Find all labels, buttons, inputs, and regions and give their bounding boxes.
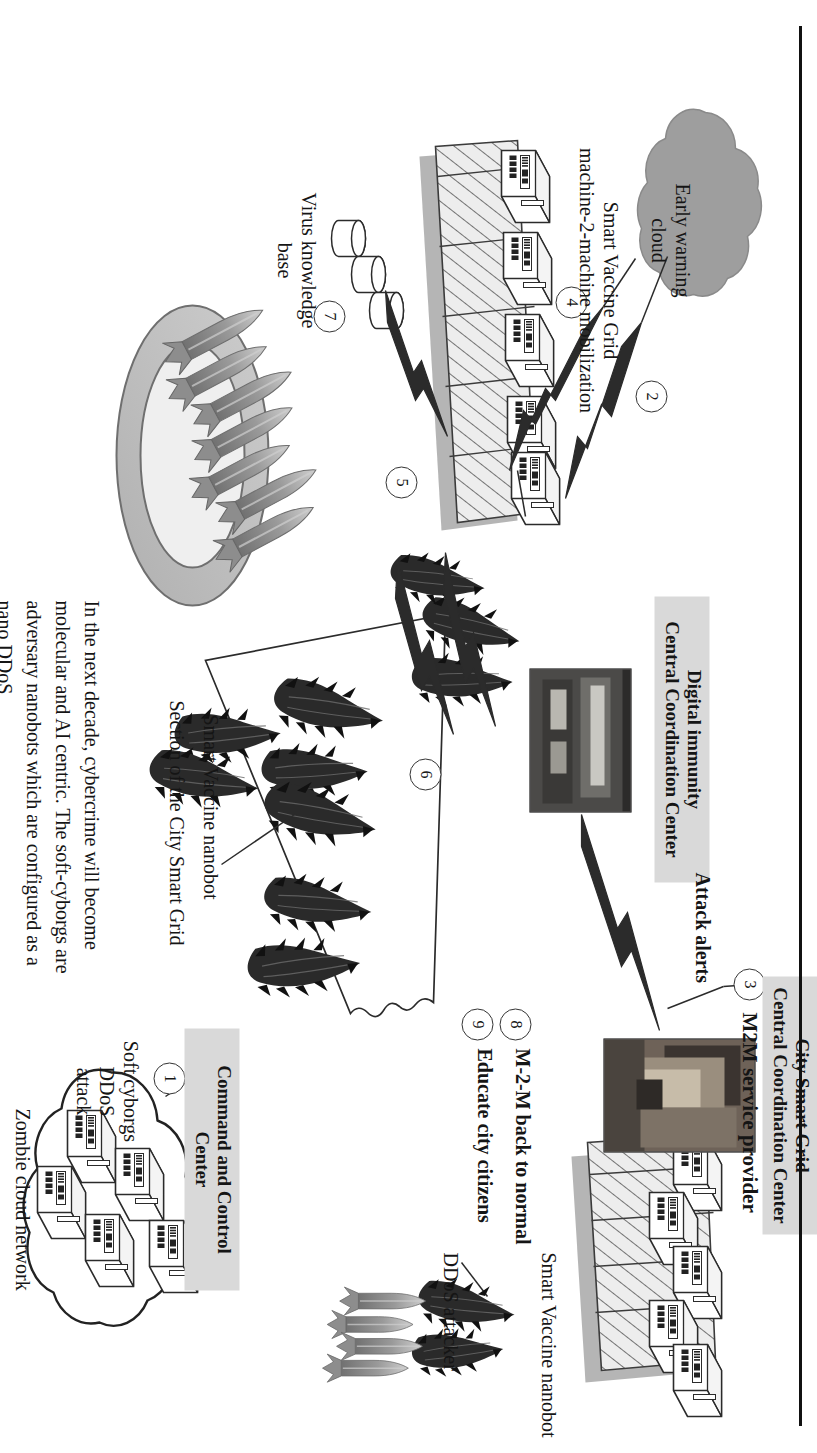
legend-rocket-icon <box>322 1287 425 1382</box>
label-command-and-control-center: Command and Control Center <box>184 1028 239 1290</box>
step-number-1: 1 <box>153 1062 185 1094</box>
step-number-6: 6 <box>409 758 441 790</box>
label-city-smart-grid-cc: City Smart Grid Central Coordination Cen… <box>762 976 817 1234</box>
label-early-warning-cloud: Early warning cloud <box>646 150 693 330</box>
step-number-9: 9 <box>461 1008 493 1040</box>
label-attack-alerts: Attack alerts <box>689 872 713 983</box>
figure-page: 1 2 3 4 5 6 7 8 9 City Smart Grid Centra… <box>0 0 817 1453</box>
digital-immunity-control-room-photo <box>529 668 631 812</box>
legend-worm-icon <box>409 1274 518 1381</box>
label-m2m-service-provider-text: M2M service provider <box>736 1012 761 1212</box>
label-section-of-city-smart-grid: Section of the City Smart Grid <box>163 700 187 945</box>
label-step-8-caption: M-2-M back to normal <box>509 1048 533 1244</box>
step-number-2: 2 <box>635 380 667 412</box>
legend-label-smart-vaccine-nanobot: Smart Vaccine nanobot <box>535 1252 559 1437</box>
step-number-5: 5 <box>385 466 417 498</box>
figure-canvas: 1 2 3 4 5 6 7 8 9 City Smart Grid Centra… <box>0 0 817 1453</box>
label-virus-knowledge-base: Virus knowledge base <box>272 160 319 360</box>
label-smart-vaccine-grid: Smart Vaccine Grid machine-2-machine mob… <box>574 112 621 448</box>
city-smart-grid-control-room-photo <box>603 1038 755 1152</box>
label-zombie-cloud-network: Zombie cloud network <box>9 1108 33 1290</box>
step-number-3: 3 <box>733 968 765 1000</box>
step-number-8: 8 <box>499 1008 531 1040</box>
figure-body-paragraph: In the next decade, cybercrime will beco… <box>0 600 105 1004</box>
legend-label-ddos-attacker: DDoS attacker <box>437 1252 461 1370</box>
label-soft-cyborgs-ddos-attack: Soft cyborgs DDoS attack <box>70 1026 141 1156</box>
label-digital-immunity-cc: Digital immunity Central Coordination Ce… <box>654 596 709 882</box>
page-edge-rule <box>799 26 802 1426</box>
label-step-9-caption: Educate city citizens <box>471 1048 495 1222</box>
label-smart-vaccine-nanobot-grid: Smart Vaccine nanobot <box>197 714 221 899</box>
